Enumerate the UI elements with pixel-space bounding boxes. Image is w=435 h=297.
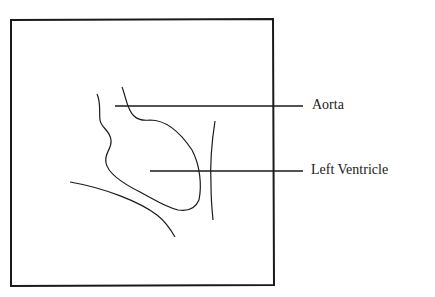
aorta-label: Aorta (312, 98, 344, 112)
left-ventricle-outline (122, 87, 200, 200)
diaphragm-curve (70, 182, 175, 237)
left-ventricle-label: Left Ventricle (311, 163, 388, 177)
frame-box (11, 19, 274, 286)
diagram-canvas (0, 0, 435, 297)
